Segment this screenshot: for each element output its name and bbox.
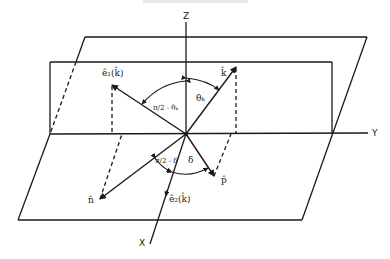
x-axis	[150, 134, 186, 244]
theta-k-label: θₖ	[196, 93, 205, 103]
horizontal-plane	[18, 37, 367, 220]
delta-arc	[172, 168, 208, 174]
y-axis	[50, 133, 368, 134]
cropped-header-text	[143, 0, 248, 3]
pi2-minus-delta-label: π/2 - δ	[155, 157, 177, 165]
x-axis-label: X	[139, 238, 145, 248]
pi2-minus-theta-k-arc	[142, 81, 186, 104]
z-axis-label: Z	[183, 11, 189, 21]
pi2-minus-theta-k-label: π/2 - θₖ	[153, 104, 178, 112]
n-hat-vector	[100, 134, 186, 199]
coordinate-geometry-diagram: Y Z X k̂ ê₁(k̂) n̂ p̂ ê₂(k̂) θₖ π/2 - θₖ…	[0, 0, 390, 259]
vertical-plane	[50, 62, 332, 134]
n-hat-label: n̂	[88, 195, 94, 205]
y-axis-label: Y	[371, 128, 378, 138]
delta-label: δ	[188, 155, 193, 165]
e2-label: ê₂(k̂)	[169, 192, 190, 204]
k-hat-label: k̂	[221, 66, 227, 78]
theta-k-arc	[186, 78, 219, 90]
k-hat-vector	[186, 67, 236, 134]
p-hat-label: p̂	[221, 175, 227, 185]
e1-label: ê₁(k̂)	[102, 66, 123, 78]
